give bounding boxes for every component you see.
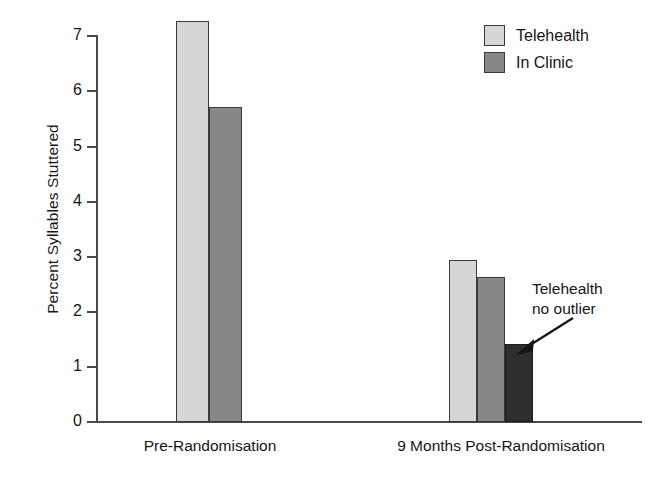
y-tick-label-7: 7	[52, 27, 82, 43]
y-tick-label-2: 2	[52, 303, 82, 319]
legend-label-in-clinic: In Clinic	[516, 55, 573, 71]
legend: Telehealth In Clinic	[484, 22, 589, 76]
y-axis-line	[96, 35, 98, 422]
y-tick-label-1: 1	[52, 358, 82, 374]
bar-chart-figure: Percent Syllables Stuttered 7 6 5 4 3 2 …	[0, 0, 654, 484]
y-tick-7	[87, 35, 96, 37]
annotation-line-1: Telehealth	[532, 279, 603, 299]
x-category-label-pre-randomisation: Pre-Randomisation	[96, 437, 324, 455]
y-tick-5	[87, 146, 96, 148]
y-tick-label-6: 6	[52, 82, 82, 98]
y-tick-6	[87, 90, 96, 92]
y-tick-3	[87, 256, 96, 258]
y-tick-label-3: 3	[52, 248, 82, 264]
y-tick-label-5: 5	[52, 138, 82, 154]
y-tick-label-0: 0	[52, 413, 82, 429]
y-tick-label-4: 4	[52, 193, 82, 209]
bar-post-telehealth	[449, 260, 477, 422]
y-tick-1	[87, 366, 96, 368]
legend-swatch-telehealth	[484, 25, 505, 46]
bar-pre-telehealth	[176, 21, 209, 422]
y-axis-title: Percent Syllables Stuttered	[44, 74, 62, 364]
y-tick-2	[87, 311, 96, 313]
x-category-label-post-randomisation: 9 Months Post-Randomisation	[348, 437, 654, 455]
annotation-arrow-icon	[500, 312, 580, 364]
legend-item-in-clinic: In Clinic	[484, 49, 589, 76]
y-tick-0	[87, 421, 96, 423]
y-tick-4	[87, 201, 96, 203]
bar-pre-inclinic	[209, 107, 242, 422]
legend-item-telehealth: Telehealth	[484, 22, 589, 49]
legend-swatch-in-clinic	[484, 52, 505, 73]
legend-label-telehealth: Telehealth	[516, 28, 589, 44]
